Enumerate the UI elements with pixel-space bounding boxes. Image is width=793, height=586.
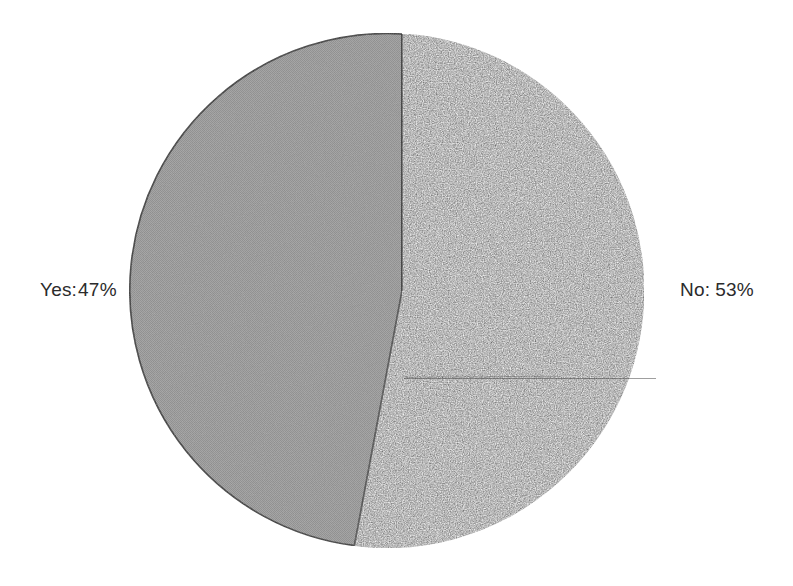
pie-label-no-name: No [680, 279, 705, 300]
pie-label-no-separator: : [705, 279, 710, 300]
pie-svg [0, 0, 793, 586]
pie-label-yes-value: 47% [78, 279, 117, 300]
pie-chart-plot-area [0, 0, 793, 586]
pie-slice-yes-path[interactable] [130, 34, 402, 546]
pie-slice-yes[interactable] [130, 34, 402, 546]
pie-label-yes-separator: : [72, 279, 77, 300]
pie-label-yes: Yes:47% [40, 279, 117, 301]
pie-chart-figure: Yes:47% No:53% [0, 0, 793, 586]
pie-label-yes-name: Yes [40, 279, 72, 300]
pie-label-no-value: 53% [715, 279, 754, 300]
pie-label-no: No:53% [680, 279, 754, 301]
